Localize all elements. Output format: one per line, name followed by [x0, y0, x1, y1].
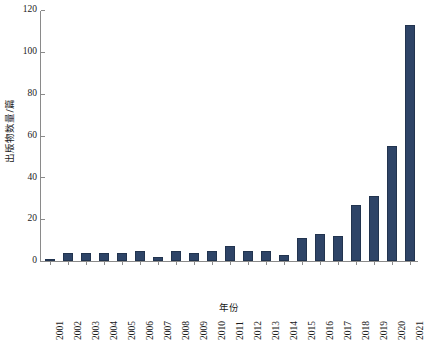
- x-axis-tick-mark: [266, 261, 267, 265]
- x-axis-tick-mark: [230, 261, 231, 265]
- x-axis-tick-mark: [284, 261, 285, 265]
- x-axis-tick-mark: [302, 261, 303, 265]
- x-axis-tick-mark: [338, 261, 339, 265]
- bar: [171, 251, 181, 261]
- bar: [243, 251, 253, 261]
- bar: [333, 236, 343, 261]
- plot-area: 020406080100120 200120022003200420052006…: [40, 11, 418, 262]
- y-axis-tick-label: 60: [28, 131, 42, 141]
- y-axis-title: 出版物数量/篇: [0, 0, 18, 262]
- bar: [297, 238, 307, 261]
- bar: [225, 246, 235, 261]
- x-axis-tick-mark: [212, 261, 213, 265]
- x-axis-tick-mark: [158, 261, 159, 265]
- x-axis-tick-mark: [320, 261, 321, 265]
- bar: [117, 253, 127, 261]
- x-axis-tick-mark: [140, 261, 141, 265]
- x-axis-tick-mark: [410, 261, 411, 265]
- y-axis-tick-label: 100: [23, 47, 41, 57]
- y-axis-tick-label: 40: [28, 173, 42, 183]
- bar: [63, 253, 73, 261]
- bar: [189, 253, 199, 261]
- bar: [351, 205, 361, 261]
- bar: [207, 251, 217, 261]
- bars-layer: [41, 11, 418, 261]
- bar: [135, 251, 145, 261]
- bar: [81, 253, 91, 261]
- x-axis-title: 年份: [40, 300, 418, 314]
- y-axis-title-label: 出版物数量/篇: [2, 99, 16, 162]
- x-axis-tick-mark: [176, 261, 177, 265]
- x-axis-tick-mark: [122, 261, 123, 265]
- x-axis-tick-mark: [392, 261, 393, 265]
- y-axis-tick-label: 120: [23, 5, 41, 15]
- x-axis-tick-mark: [68, 261, 69, 265]
- bar: [405, 25, 415, 261]
- bar: [99, 253, 109, 261]
- y-axis-tick-mark: [41, 261, 45, 262]
- x-axis-tick-mark: [50, 261, 51, 265]
- bar: [261, 251, 271, 261]
- x-axis-tick-mark: [248, 261, 249, 265]
- y-axis-tick-label: 80: [28, 89, 42, 99]
- bar: [315, 234, 325, 261]
- bar: [369, 196, 379, 261]
- x-axis-tick-mark: [374, 261, 375, 265]
- x-axis-tick-mark: [356, 261, 357, 265]
- bar: [387, 146, 397, 261]
- x-axis-tick-mark: [104, 261, 105, 265]
- x-axis-tick-mark: [194, 261, 195, 265]
- y-axis-tick-label: 20: [28, 214, 42, 224]
- x-axis-tick-mark: [86, 261, 87, 265]
- y-axis-tick-label: 0: [32, 256, 41, 266]
